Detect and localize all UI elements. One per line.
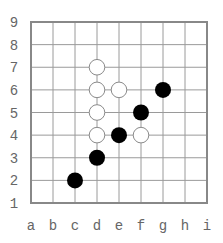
row-label-5: 5: [10, 106, 18, 122]
board-grid: [31, 22, 207, 203]
row-label-9: 9: [10, 15, 18, 31]
black-stone-c2: [67, 172, 83, 188]
white-stone-f4: [133, 127, 149, 143]
column-label-f: f: [137, 218, 145, 234]
row-label-3: 3: [10, 151, 18, 167]
row-label-7: 7: [10, 60, 18, 76]
column-label-a: a: [27, 218, 35, 234]
game-board: 123456789 abcdefghi: [0, 0, 223, 243]
white-stone-d6: [89, 82, 105, 98]
white-stone-d7: [89, 59, 105, 75]
column-label-c: c: [71, 218, 79, 234]
column-label-b: b: [49, 218, 57, 234]
row-labels: 123456789: [10, 15, 18, 212]
black-stone-g6: [155, 82, 171, 98]
white-stone-d5: [89, 105, 105, 121]
column-label-d: d: [93, 218, 101, 234]
white-stone-d4: [89, 127, 105, 143]
column-labels: abcdefghi: [27, 218, 211, 234]
column-label-h: h: [181, 218, 189, 234]
white-stone-e6: [111, 82, 127, 98]
black-stone-e4: [111, 127, 127, 143]
black-stone-f5: [133, 105, 149, 121]
column-label-e: e: [115, 218, 123, 234]
row-label-4: 4: [10, 128, 18, 144]
row-label-1: 1: [10, 196, 18, 212]
row-label-6: 6: [10, 83, 18, 99]
black-stone-d3: [89, 150, 105, 166]
column-label-i: i: [203, 218, 211, 234]
row-label-2: 2: [10, 173, 18, 189]
row-label-8: 8: [10, 38, 18, 54]
column-label-g: g: [159, 218, 167, 234]
